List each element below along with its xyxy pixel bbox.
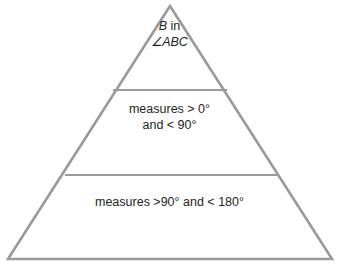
tier-acute-line-1: measures > 0° [0, 101, 339, 117]
tier-vertex-line-1: B in [0, 18, 339, 34]
tier-vertex-text: B in ∠ABC [0, 18, 339, 50]
vertex-in-label: in [167, 19, 180, 33]
triangle-diagram: B in ∠ABC measures > 0° and < 90° measur… [0, 0, 339, 271]
tier-acute-line-2: and < 90° [0, 117, 339, 133]
tier-obtuse-text: measures >90° and < 180° [0, 194, 339, 210]
vertex-point-label: B [159, 19, 167, 33]
tier-vertex-line-2: ∠ABC [0, 34, 339, 50]
tier-obtuse-line-1: measures >90° and < 180° [0, 194, 339, 210]
tier-acute-text: measures > 0° and < 90° [0, 101, 339, 133]
